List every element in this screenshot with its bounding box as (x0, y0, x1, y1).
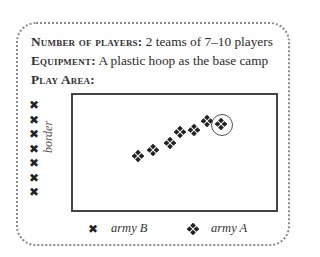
play-field (71, 93, 278, 212)
border-label: border (41, 121, 56, 153)
army-b-player-icon: ✖ (29, 157, 39, 169)
army-b-player-icon: ✖ (29, 99, 39, 111)
equipment-line: Equipment: A plastic hoop as the base ca… (31, 53, 268, 69)
equipment-label: Equipment: (31, 53, 96, 68)
army-a-player-icon (164, 137, 176, 149)
army-b-player-icon: ✖ (29, 143, 39, 155)
play-area-label: Play Area: (31, 72, 95, 87)
army-b-player-icon: ✖ (29, 186, 39, 198)
legend-army-b-icon: ✖ (88, 223, 98, 235)
legend-army-b-label: army B (111, 221, 147, 236)
players-line: Number of players: 2 teams of 7–10 playe… (31, 34, 273, 50)
army-a-player-icon (188, 124, 200, 136)
equipment-value: A plastic hoop as the base camp (96, 53, 268, 68)
players-value: 2 teams of 7–10 players (142, 34, 272, 49)
army-a-player-icon (147, 144, 159, 156)
army-a-player-icon (174, 126, 186, 138)
players-label: Number of players: (31, 34, 142, 49)
army-b-player-icon: ✖ (29, 114, 39, 126)
army-b-player-icon: ✖ (29, 172, 39, 184)
base-camp-hoop (211, 114, 233, 136)
play-area-line: Play Area: (31, 72, 95, 88)
army-b-player-icon: ✖ (29, 128, 39, 140)
legend-army-a-icon (187, 223, 199, 235)
army-a-player-icon (132, 150, 144, 162)
legend-army-a-label: army A (211, 221, 247, 236)
